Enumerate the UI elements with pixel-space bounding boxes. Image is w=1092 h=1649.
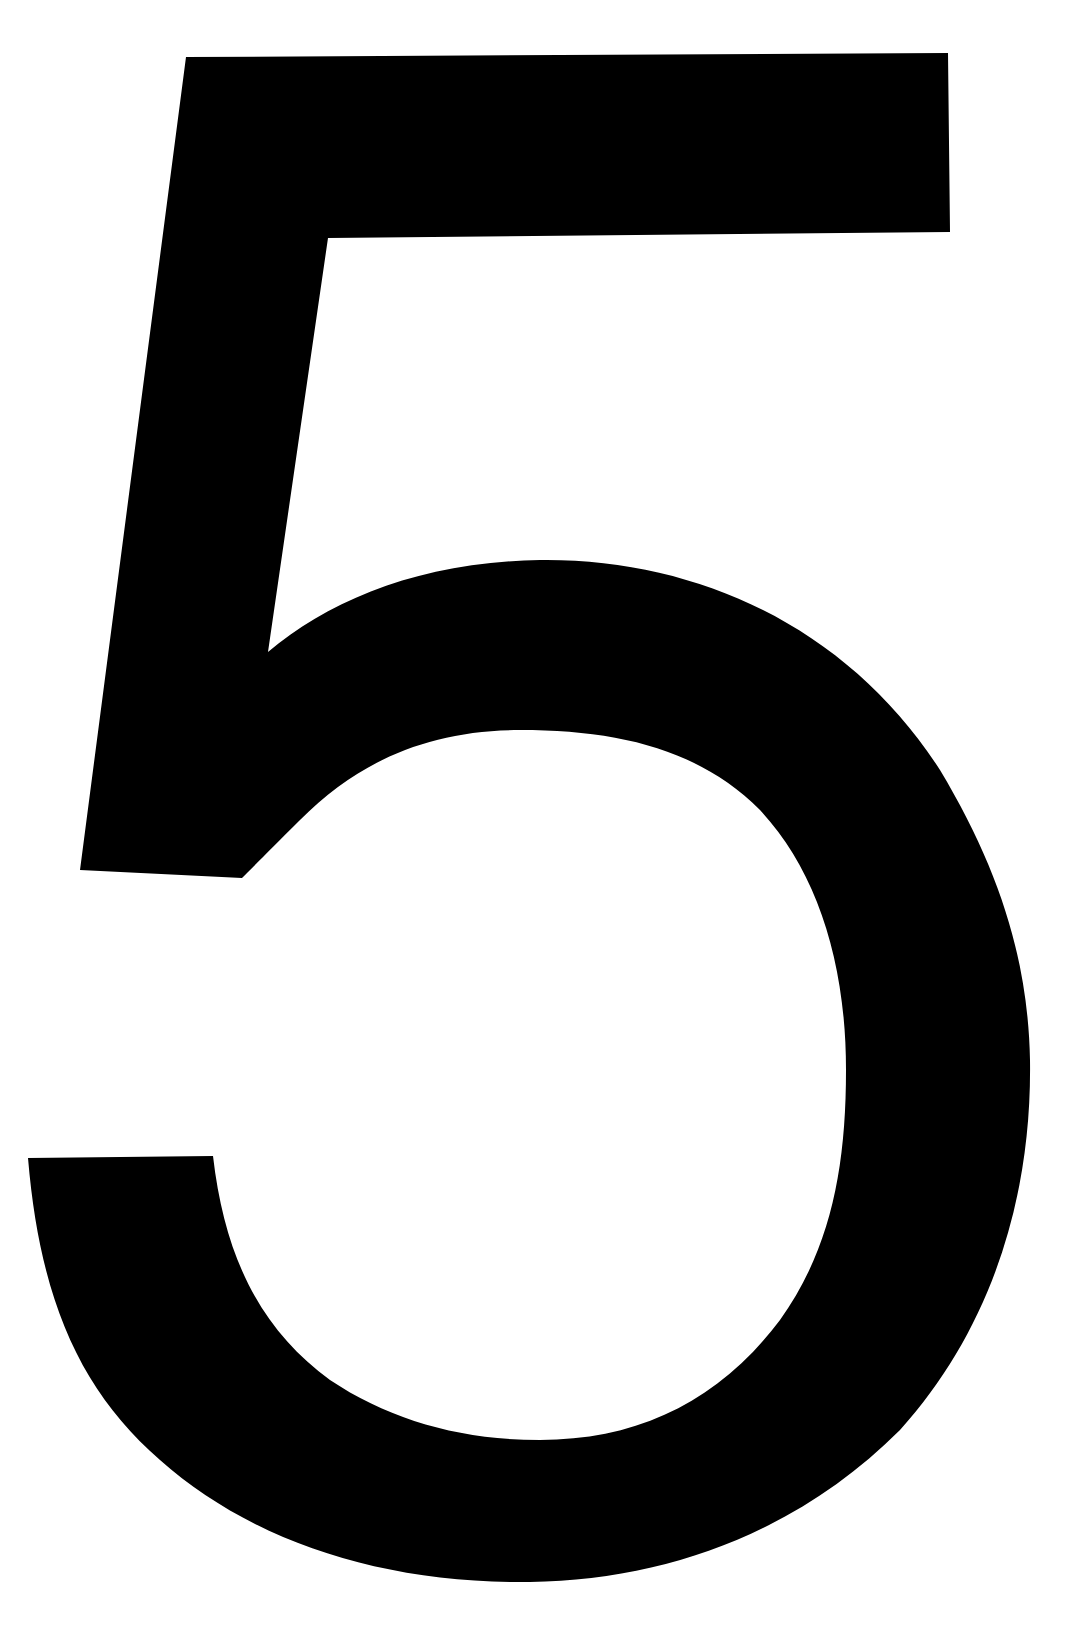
numeral-five-path	[28, 53, 1030, 1582]
numeral-five-shape	[0, 0, 1092, 1649]
